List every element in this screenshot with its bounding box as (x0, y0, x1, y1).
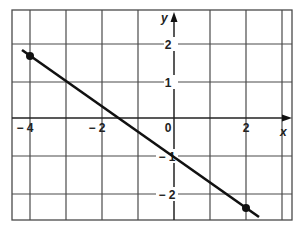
plot-frame (12, 10, 292, 220)
y-tick-label-2: 2 (165, 38, 172, 52)
x-axis-label: x (279, 125, 288, 139)
data-point-2 (242, 204, 250, 212)
y-axis-arrow-icon (171, 12, 178, 22)
x-tick-label-2: 2 (243, 121, 250, 135)
y-tick-label-neg2: − 2 (158, 188, 175, 202)
x-axis-arrow-icon (282, 115, 292, 122)
data-point-neg4 (26, 52, 34, 60)
x-tick-label-neg2: − 2 (88, 121, 105, 135)
chart: y x 2 1 − 1 − 2 − 4 − 2 0 2 (0, 0, 297, 232)
y-axis-label: y (160, 11, 169, 25)
y-tick-label-1: 1 (165, 76, 172, 90)
data-line (22, 50, 259, 217)
x-tick-label-0: 0 (165, 121, 172, 135)
x-tick-label-neg4: − 4 (16, 121, 33, 135)
horizontal-gridlines (12, 44, 292, 194)
x-axis (12, 115, 292, 122)
